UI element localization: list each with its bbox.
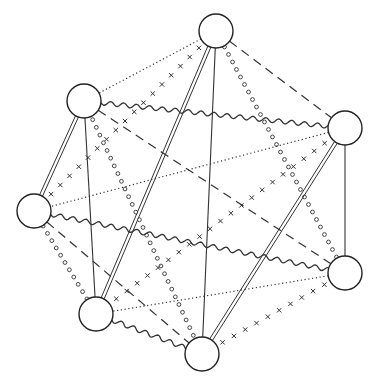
- nodes-layer: [17, 14, 362, 371]
- node-bottom: [185, 337, 219, 371]
- node-circle: [185, 337, 219, 371]
- edge-right-bottom-double: [210, 142, 338, 341]
- node-lower-right: [328, 256, 362, 290]
- edge-lower-right-bottom-crosses: [220, 282, 326, 344]
- edge-lower-right-lower-left-dotted: [113, 276, 328, 311]
- edge-top-bottom-solid: [203, 48, 216, 337]
- edge-left-lower-left-circles: [41, 224, 89, 301]
- edge-top-right-dashed: [230, 41, 332, 118]
- edge-top-left-crosses: [49, 46, 201, 197]
- node-right: [328, 111, 362, 145]
- node-top: [199, 14, 233, 48]
- graph-diagram: [0, 0, 375, 386]
- edge-upper-left-lower-right-dashed: [98, 110, 331, 263]
- edge-upper-left-right-wavy: [101, 102, 328, 128]
- node-lower-left: [79, 297, 113, 331]
- node-circle: [79, 297, 113, 331]
- node-circle: [328, 256, 362, 290]
- node-upper-left: [67, 84, 101, 118]
- node-circle: [17, 194, 51, 228]
- edge-upper-left-lower-left-solid: [85, 118, 95, 297]
- edge-right-lower-left-crosses: [114, 141, 327, 301]
- edge-right-left-dotted: [50, 132, 328, 206]
- node-circle: [67, 84, 101, 118]
- node-left: [17, 194, 51, 228]
- edge-lower-left-bottom-wavy: [112, 320, 186, 349]
- node-circle: [328, 111, 362, 145]
- edge-top-upper-left-dotted: [99, 39, 201, 93]
- node-circle: [199, 14, 233, 48]
